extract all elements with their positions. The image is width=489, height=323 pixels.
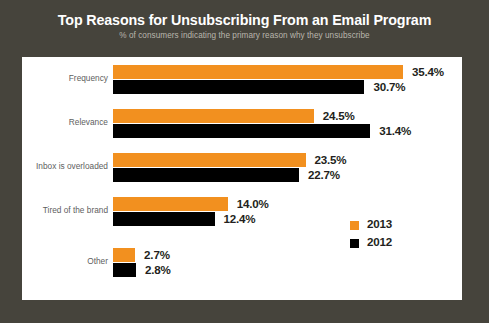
category-label: Other bbox=[22, 256, 108, 266]
bar-value-label: 35.4% bbox=[412, 65, 444, 78]
bar-2013 bbox=[113, 109, 314, 123]
chart-subtitle: % of consumers indicating the primary re… bbox=[0, 31, 489, 40]
bar-2013 bbox=[113, 197, 228, 211]
bar-group: Inbox is overloaded23.5%22.7% bbox=[22, 153, 462, 183]
legend-item-2012: 2012 bbox=[350, 235, 450, 253]
chart-plot-area: Frequency35.4%30.7%Relevance24.5%31.4%In… bbox=[22, 57, 462, 300]
category-label: Frequency bbox=[22, 73, 108, 83]
bar-2013 bbox=[113, 65, 403, 79]
legend-swatch-2013 bbox=[350, 221, 359, 230]
bar-2012 bbox=[113, 80, 364, 94]
category-label: Relevance bbox=[22, 117, 108, 127]
legend-item-2013: 2013 bbox=[350, 217, 450, 235]
legend-swatch-2012 bbox=[350, 239, 359, 248]
chart-header-band: Top Reasons for Unsubscribing From an Em… bbox=[0, 0, 489, 57]
bar-value-label: 14.0% bbox=[237, 197, 269, 210]
bar-value-label: 24.5% bbox=[323, 109, 355, 122]
bar-2012 bbox=[113, 124, 370, 138]
bar-2013 bbox=[113, 153, 306, 167]
bar-value-label: 22.7% bbox=[308, 168, 340, 181]
bar-value-label: 31.4% bbox=[379, 124, 411, 137]
bar-2013 bbox=[113, 248, 135, 262]
bar-group: Frequency35.4%30.7% bbox=[22, 65, 462, 95]
bar-value-label: 2.8% bbox=[145, 263, 171, 276]
bar-value-label: 30.7% bbox=[373, 80, 405, 93]
bar-group: Relevance24.5%31.4% bbox=[22, 109, 462, 139]
bar-2012 bbox=[113, 168, 299, 182]
legend-label-2012: 2012 bbox=[367, 235, 392, 248]
legend-label-2013: 2013 bbox=[367, 217, 392, 230]
chart-title: Top Reasons for Unsubscribing From an Em… bbox=[0, 12, 489, 28]
bar-2012 bbox=[113, 263, 136, 277]
bar-value-label: 12.4% bbox=[224, 212, 256, 225]
bar-2012 bbox=[113, 212, 215, 226]
chart-figure: Top Reasons for Unsubscribing From an Em… bbox=[0, 0, 489, 323]
category-label: Tired of the brand bbox=[22, 205, 108, 215]
bar-value-label: 23.5% bbox=[315, 153, 347, 166]
chart-legend: 2013 2012 bbox=[350, 217, 450, 253]
bar-value-label: 2.7% bbox=[144, 248, 170, 261]
category-label: Inbox is overloaded bbox=[22, 161, 108, 171]
